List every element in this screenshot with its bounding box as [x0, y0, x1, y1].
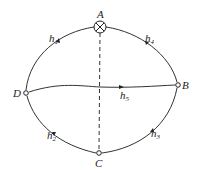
label-d: D — [12, 87, 21, 99]
node-a-crossed-circle-icon — [94, 21, 106, 33]
label-b: B — [182, 79, 189, 91]
label-h2: h2 — [47, 129, 57, 143]
edge-h5 — [29, 85, 175, 92]
edge-h1 — [26, 27, 94, 90]
label-c: C — [95, 157, 103, 169]
node-d — [24, 91, 29, 96]
label-h3: h3 — [151, 127, 161, 141]
label-h4: h4 — [145, 32, 155, 46]
edge-h3 — [102, 88, 177, 153]
label-h1: h1 — [49, 32, 58, 46]
label-a: A — [96, 8, 104, 20]
edge-h2 — [27, 96, 96, 153]
edge-h4 — [106, 27, 177, 82]
node-c — [97, 151, 102, 156]
node-b — [176, 83, 181, 88]
dashed-line-a-c — [99, 33, 100, 150]
network-diagram: A B C D h1 h2 h3 h4 h5 — [0, 0, 200, 173]
label-h5: h5 — [120, 89, 130, 103]
